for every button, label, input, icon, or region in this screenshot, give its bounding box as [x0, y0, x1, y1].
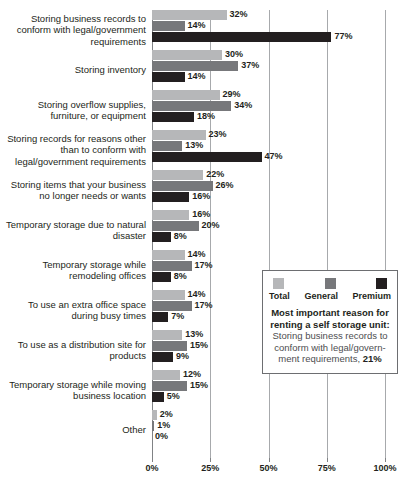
- category-label: Temporary storage due to natural disaste…: [0, 219, 146, 242]
- bar-general: [152, 21, 185, 31]
- bar-group: 30%37%14%: [152, 50, 385, 90]
- bar-general: [152, 381, 187, 391]
- category-label-row: To use an extra office space during busy…: [0, 290, 146, 330]
- annotation-body: Storing business records to conform with…: [269, 330, 391, 365]
- category-label-row: Temporary storage while moving business …: [0, 370, 146, 410]
- bar-line: 14%: [152, 21, 385, 31]
- category-label-row: To use as a distribution site for produc…: [0, 330, 146, 370]
- bar-premium: [152, 312, 168, 322]
- bar-premium: [152, 192, 189, 202]
- x-tick-mark: [152, 458, 153, 462]
- bar-line: 30%: [152, 50, 385, 60]
- x-tick-mark: [210, 458, 211, 462]
- bar-total: [152, 170, 203, 180]
- legend-swatch-total: [273, 278, 284, 289]
- bar-line: 77%: [152, 32, 385, 42]
- bar-line: 1%: [152, 421, 385, 431]
- bar-value-label: 13%: [185, 140, 203, 151]
- bar-general: [152, 181, 213, 191]
- category-label-row: Temporary storage while remodeling offic…: [0, 250, 146, 290]
- bar-value-label: 34%: [234, 100, 252, 111]
- bar-line: 2%: [152, 410, 385, 420]
- bar-line: 22%: [152, 170, 385, 180]
- category-axis-labels: Storing business records to conform with…: [0, 10, 146, 450]
- bar-line: 16%: [152, 210, 385, 220]
- category-label: Storing items that your business no long…: [0, 179, 146, 202]
- plot-area: 32%14%77%30%37%14%29%34%18%23%13%47%22%2…: [152, 10, 385, 458]
- category-label: Storing records for reasons other than t…: [0, 133, 146, 168]
- bar-value-label: 5%: [167, 391, 180, 402]
- bar-value-label: 20%: [202, 220, 220, 231]
- bar-total: [152, 50, 222, 60]
- legend-label-general: General: [304, 291, 338, 301]
- bar-value-label: 23%: [209, 129, 227, 140]
- gridline-100pct: [385, 10, 386, 458]
- category-label-row: Storing overflow supplies, furniture, or…: [0, 90, 146, 130]
- bar-premium: [152, 352, 173, 362]
- bar-group: 12%15%5%: [152, 370, 385, 410]
- bar-value-label: 32%: [230, 9, 248, 20]
- bar-value-label: 14%: [188, 249, 206, 260]
- bar-group: 16%20%8%: [152, 210, 385, 250]
- legend-swatches: [269, 278, 391, 289]
- bar-value-label: 22%: [206, 169, 224, 180]
- bar-value-label: 37%: [241, 60, 259, 71]
- annotation-body-value: 21%: [363, 353, 382, 364]
- bar-rows: 32%14%77%30%37%14%29%34%18%23%13%47%22%2…: [152, 10, 385, 450]
- category-label: To use as a distribution site for produc…: [0, 339, 146, 362]
- bar-value-label: 14%: [188, 20, 206, 31]
- bar-general: [152, 101, 231, 111]
- horizontal-bar-chart: Storing business records to conform with…: [0, 0, 410, 484]
- category-label-row: Storing inventory: [0, 50, 146, 90]
- bar-value-label: 47%: [265, 151, 283, 162]
- bar-line: 37%: [152, 61, 385, 71]
- legend-labels: Total General Premium: [269, 291, 391, 301]
- bar-total: [152, 330, 182, 340]
- bar-total: [152, 130, 206, 140]
- bar-value-label: 15%: [190, 340, 208, 351]
- bar-line: 34%: [152, 101, 385, 111]
- x-tick-label: 25%: [201, 463, 219, 473]
- bar-premium: [152, 232, 171, 242]
- category-label-row: Storing records for reasons other than t…: [0, 130, 146, 170]
- x-tick-mark: [327, 458, 328, 462]
- bar-total: [152, 10, 227, 20]
- bar-premium: [152, 392, 164, 402]
- bar-value-label: 0%: [155, 431, 168, 442]
- bar-value-label: 13%: [185, 329, 203, 340]
- bar-premium: [152, 32, 331, 42]
- x-tick-label: 50%: [259, 463, 277, 473]
- category-label-row: Temporary storage due to natural disaste…: [0, 210, 146, 250]
- bar-line: 20%: [152, 221, 385, 231]
- annotation-title: Most important reason for renting a self…: [269, 307, 391, 330]
- bar-value-label: 8%: [174, 231, 187, 242]
- category-label: Storing overflow supplies, furniture, or…: [0, 99, 146, 122]
- category-label-row: Storing items that your business no long…: [0, 170, 146, 210]
- bar-value-label: 29%: [223, 89, 241, 100]
- bar-line: 29%: [152, 90, 385, 100]
- x-tick-label: 100%: [373, 463, 396, 473]
- bar-general: [152, 61, 238, 71]
- bar-general: [152, 341, 187, 351]
- legend-swatch-premium: [376, 278, 387, 289]
- bar-group: 2%1%0%: [152, 410, 385, 450]
- bar-total: [152, 370, 180, 380]
- bar-line: 32%: [152, 10, 385, 20]
- x-tick-mark: [385, 458, 386, 462]
- bar-value-label: 26%: [216, 180, 234, 191]
- bar-value-label: 16%: [192, 191, 210, 202]
- bar-value-label: 2%: [160, 409, 173, 420]
- bar-line: 13%: [152, 141, 385, 151]
- bar-total: [152, 210, 189, 220]
- category-label: Temporary storage while remodeling offic…: [0, 259, 146, 282]
- bar-line: 23%: [152, 130, 385, 140]
- bar-value-label: 14%: [188, 71, 206, 82]
- bar-line: 26%: [152, 181, 385, 191]
- bar-value-label: 1%: [157, 420, 170, 431]
- x-axis: 0%25%50%75%100%: [152, 458, 385, 478]
- bar-line: 8%: [152, 232, 385, 242]
- x-tick-mark: [269, 458, 270, 462]
- bar-value-label: 17%: [195, 300, 213, 311]
- bar-line: 14%: [152, 250, 385, 260]
- bar-general: [152, 421, 154, 431]
